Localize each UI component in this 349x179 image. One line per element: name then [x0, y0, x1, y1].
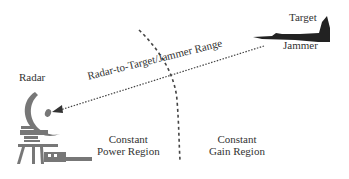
arrow-head-icon — [52, 105, 63, 113]
power-region-line-1: Constant — [97, 133, 160, 145]
gain-region-line-1: Constant — [209, 133, 265, 145]
constant-gain-region-label: Constant Gain Region — [209, 133, 265, 157]
radar-dish-icon — [17, 92, 92, 164]
diagram-canvas: Radar Target Jammer Radar-to-Target/Jamm… — [0, 0, 349, 179]
jammer-label: Jammer — [283, 39, 318, 51]
power-region-line-2: Power Region — [97, 145, 160, 157]
constant-power-region-label: Constant Power Region — [97, 133, 160, 157]
target-label: Target — [289, 11, 317, 23]
diagram-graphics — [0, 0, 349, 179]
gain-region-line-2: Gain Region — [209, 145, 265, 157]
radar-label: Radar — [19, 71, 45, 83]
